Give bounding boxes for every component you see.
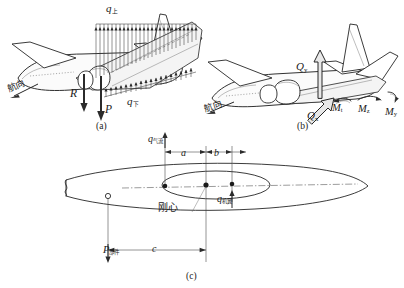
figure-aircraft-loads: q上 q下 R P 航向 (a) — [0, 0, 404, 288]
q-airflow-arrow — [162, 132, 167, 148]
label-moment-Mt: Mt — [332, 103, 343, 114]
caption-panel-c: (c) — [186, 272, 197, 282]
label-dim-c: c — [152, 244, 156, 254]
panel-a-drawing — [0, 0, 202, 140]
label-q-lower: q下 — [127, 96, 139, 108]
label-shear-center: 刚心 — [158, 203, 178, 213]
dimension-b — [206, 150, 246, 154]
label-P-component: P部件 — [103, 245, 119, 256]
label-force-P: P — [105, 104, 112, 116]
point-shear-center — [203, 182, 208, 187]
panel-c-drawing — [40, 132, 370, 288]
point-wing-weight — [230, 182, 235, 187]
panel-a — [0, 0, 202, 140]
dimension-c — [108, 248, 206, 252]
label-dim-a: a — [181, 148, 186, 158]
label-moment-Mz: Mz — [358, 104, 370, 115]
caption-panel-b: (b) — [297, 122, 308, 132]
caption-panel-a: (a) — [96, 122, 107, 132]
label-q-upper: q上 — [106, 3, 118, 15]
label-moment-My: My — [385, 107, 397, 118]
label-dim-b: b — [214, 148, 219, 158]
point-component-attach — [105, 193, 110, 198]
point-airflow-load — [163, 184, 168, 189]
label-force-Qx: Qx — [307, 110, 318, 122]
label-force-Qy: Qy — [296, 61, 307, 73]
panel-c — [40, 132, 370, 288]
label-q-airflow: q气流 — [148, 134, 163, 144]
label-q-wing: q机翼 — [217, 194, 232, 204]
label-force-R: R — [70, 88, 77, 100]
moment-My-arrow — [388, 92, 399, 102]
